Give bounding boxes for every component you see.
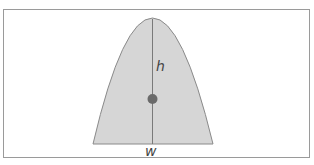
centroid-dot (148, 94, 158, 104)
parabola-diagram: h w (0, 0, 314, 165)
width-label: w (145, 143, 157, 159)
height-label: h (156, 58, 165, 74)
